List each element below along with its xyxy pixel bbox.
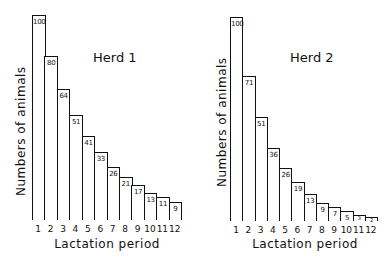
bar-value-label: 21 — [120, 180, 132, 188]
bar-value-label: 100 — [33, 18, 45, 26]
bar-value-label: 51 — [256, 120, 267, 128]
x-tick-label: 9 — [328, 225, 341, 235]
x-tick-label: 11 — [156, 224, 169, 234]
x-tick-label: 3 — [57, 224, 70, 234]
x-tick-label: 5 — [279, 225, 292, 235]
x-tick-label: 12 — [364, 225, 377, 235]
x-axis-label: Lactation period — [52, 237, 162, 251]
x-tick-label: 10 — [340, 225, 353, 235]
bar-value-label: 5 — [341, 214, 352, 222]
x-tick-label: 4 — [69, 224, 82, 234]
bar-value-label: 100 — [231, 20, 242, 28]
bar-value-label: 26 — [280, 171, 291, 179]
bar-value-label: 13 — [145, 196, 157, 204]
x-tick-label: 2 — [242, 225, 255, 235]
bar: 9 — [169, 202, 183, 220]
y-axis-label: Numbers of animals — [215, 57, 229, 187]
x-tick-label: 7 — [303, 225, 316, 235]
chart-herd-1: Numbers of animals Herd 1 10080645141332… — [0, 0, 195, 265]
bar-value-label: 7 — [329, 210, 340, 218]
x-axis-label: Lactation period — [250, 237, 360, 251]
x-tick-label: 10 — [143, 224, 156, 234]
bar-value-label: 13 — [305, 197, 316, 205]
bar-value-label: 11 — [157, 200, 169, 208]
plot-area: 100806451413326211713119 — [32, 15, 181, 220]
x-tick-label: 9 — [131, 224, 144, 234]
bar-value-label: 3 — [354, 216, 365, 221]
bar-value-label: 26 — [108, 170, 120, 178]
x-tick-label: 8 — [315, 225, 328, 235]
bar-value-label: 19 — [292, 185, 303, 193]
bar-value-label: 9 — [170, 205, 182, 213]
x-tick-label: 3 — [254, 225, 267, 235]
chart-herd-2: Numbers of animals Herd 2 10071513626191… — [195, 0, 390, 265]
bar: 2 — [365, 217, 378, 221]
y-axis-label: Numbers of animals — [14, 66, 28, 196]
x-tick-label: 6 — [94, 224, 107, 234]
bar-value-label: 2 — [366, 218, 377, 223]
bar-value-label: 9 — [317, 206, 328, 214]
x-tick-label: 1 — [230, 225, 243, 235]
x-tick-label: 11 — [352, 225, 365, 235]
x-tick-label: 5 — [81, 224, 94, 234]
x-tick-label: 4 — [266, 225, 279, 235]
bar-value-label: 51 — [70, 118, 82, 126]
x-tick-label: 7 — [106, 224, 119, 234]
x-tick-label: 12 — [168, 224, 181, 234]
bar-value-label: 80 — [45, 59, 57, 67]
x-tick-label: 1 — [32, 224, 45, 234]
x-tick-label: 8 — [119, 224, 132, 234]
bar-value-label: 36 — [268, 151, 279, 159]
x-tick-label: 6 — [291, 225, 304, 235]
plot-area: 10071513626191397532 — [230, 17, 377, 221]
bar-value-label: 33 — [95, 155, 107, 163]
bar-value-label: 71 — [243, 79, 254, 87]
bar-value-label: 64 — [58, 92, 70, 100]
bar-value-label: 17 — [132, 188, 144, 196]
bar-value-label: 41 — [83, 139, 95, 147]
x-tick-label: 2 — [44, 224, 57, 234]
